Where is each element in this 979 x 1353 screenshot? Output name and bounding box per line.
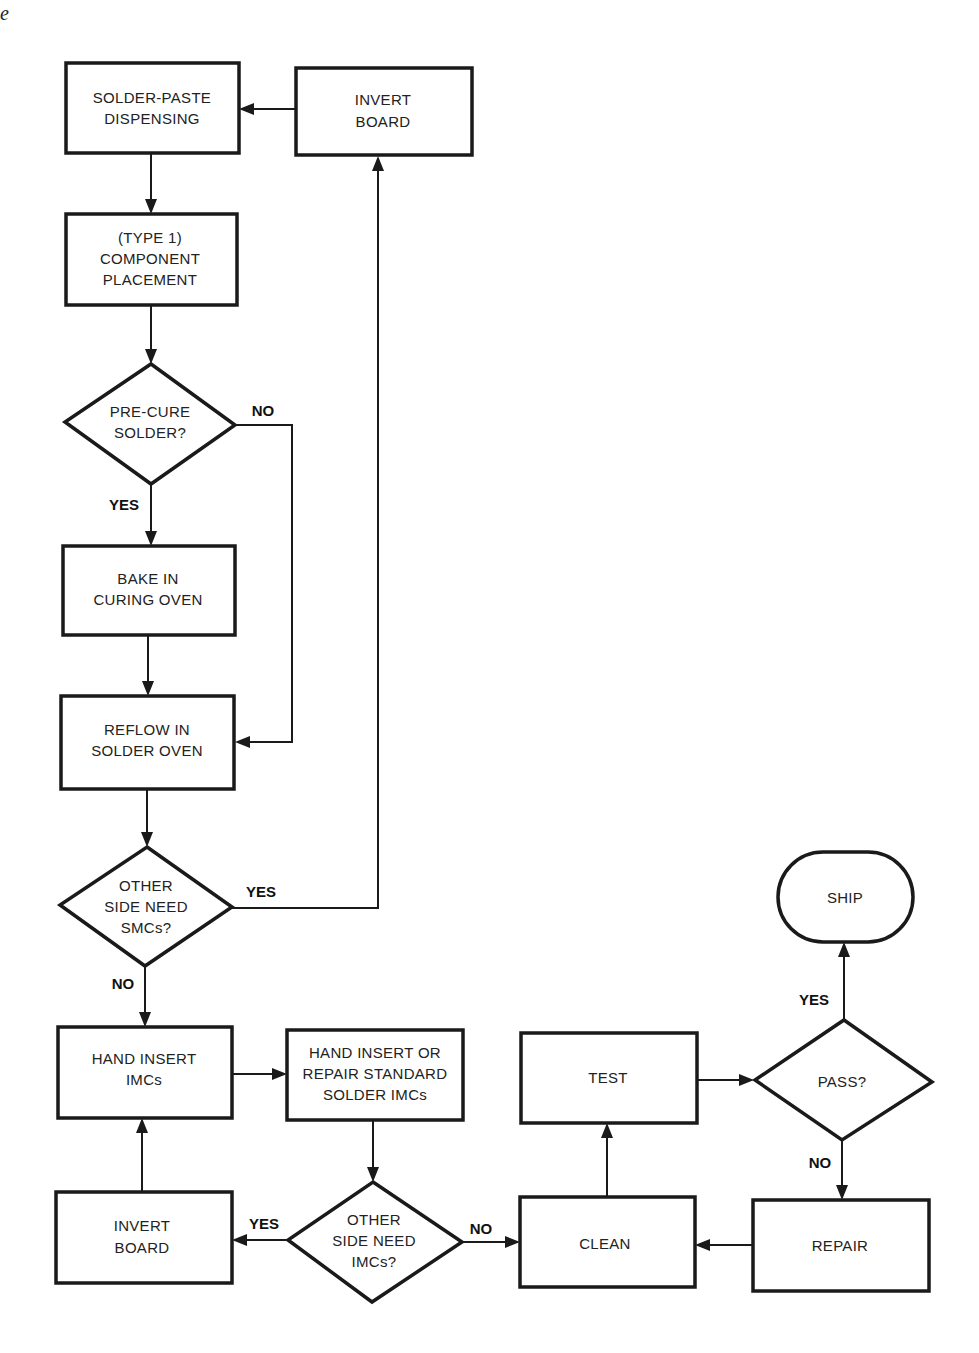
arrowhead [367, 1167, 379, 1182]
arrowhead [141, 832, 153, 847]
arrowhead [838, 942, 850, 957]
node-label: CURING OVEN [93, 591, 202, 608]
node-label: SOLDER OVEN [91, 742, 203, 759]
arrowhead [836, 1185, 848, 1200]
node-test: TEST [521, 1033, 697, 1123]
node-clean: CLEAN [520, 1197, 695, 1287]
node-label: SIDE NEED [104, 898, 188, 915]
edge-label-yes: YES [109, 496, 139, 513]
node-label: HAND INSERT [92, 1050, 197, 1067]
node-label: REPAIR [812, 1237, 869, 1254]
arrowhead [272, 1068, 287, 1080]
node-hand-insert-or-repair: HAND INSERT OR REPAIR STANDARD SOLDER IM… [287, 1030, 463, 1120]
arrowhead [136, 1118, 148, 1133]
node-label: IMCs? [352, 1253, 397, 1270]
flowchart: SOLDER-PASTE DISPENSING INVERT BOARD (TY… [0, 0, 979, 1353]
node-label: TEST [588, 1069, 628, 1086]
node-bake-in-curing-oven: BAKE IN CURING OVEN [63, 546, 235, 635]
arrowhead [232, 1234, 247, 1246]
node-label: IMCs [126, 1071, 162, 1088]
edge-label-no: NO [809, 1154, 832, 1171]
decision-other-side-imcs: OTHER SIDE NEED IMCs? [288, 1182, 462, 1302]
arrowhead [505, 1236, 520, 1248]
edge-label-no: NO [252, 402, 275, 419]
node-label: SHIP [827, 889, 863, 906]
node-label: PASS? [818, 1073, 867, 1090]
node-label: OTHER [347, 1211, 401, 1228]
edge-label-no: NO [470, 1220, 493, 1237]
node-label: HAND INSERT OR [309, 1044, 441, 1061]
node-label: SOLDER? [114, 424, 186, 441]
node-label: CLEAN [579, 1235, 631, 1252]
arrowhead [145, 349, 157, 364]
decision-precure-solder: PRE-CURE SOLDER? [65, 364, 235, 484]
node-solder-paste-dispensing: SOLDER-PASTE DISPENSING [66, 63, 239, 153]
node-label: BAKE IN [117, 570, 178, 587]
node-label: BOARD [115, 1239, 170, 1256]
node-reflow-in-solder-oven: REFLOW IN SOLDER OVEN [61, 696, 234, 789]
node-component-placement: (TYPE 1) COMPONENT PLACEMENT [66, 214, 237, 305]
node-label: REFLOW IN [104, 721, 190, 738]
node-label: SOLDER IMCs [323, 1086, 427, 1103]
node-label: OTHER [119, 877, 173, 894]
edge-label-no: NO [112, 975, 135, 992]
decision-pass: PASS? [755, 1020, 932, 1140]
node-invert-board-bottom: INVERT BOARD [56, 1192, 232, 1283]
node-label: REPAIR STANDARD [303, 1065, 448, 1082]
node-label: SMCs? [121, 919, 172, 936]
node-label: BOARD [356, 113, 411, 130]
node-label: DISPENSING [104, 110, 200, 127]
arrowhead [235, 736, 250, 748]
node-label: INVERT [114, 1217, 171, 1234]
node-label: PRE-CURE [110, 403, 191, 420]
arrowhead [601, 1123, 613, 1138]
node-label: COMPONENT [100, 250, 200, 267]
edge-precure-no-to-reflow [235, 425, 292, 742]
arrowhead [739, 1074, 754, 1086]
arrowhead [372, 156, 384, 171]
edge-label-yes: YES [246, 883, 276, 900]
node-label: PLACEMENT [103, 271, 197, 288]
arrowhead [139, 1012, 151, 1027]
node-repair: REPAIR [753, 1200, 929, 1291]
arrowhead [145, 199, 157, 214]
arrowhead [142, 681, 154, 696]
decision-other-side-smcs: OTHER SIDE NEED SMCs? [60, 847, 232, 966]
node-label: (TYPE 1) [118, 229, 182, 246]
edge-smcs-yes-to-invert [232, 170, 378, 908]
node-hand-insert-imcs: HAND INSERT IMCs [58, 1027, 232, 1118]
edges [136, 103, 850, 1251]
node-invert-board-top: INVERT BOARD [296, 68, 472, 155]
edge-label-yes: YES [799, 991, 829, 1008]
node-label: SOLDER-PASTE [93, 89, 211, 106]
arrowhead [145, 531, 157, 546]
edge-label-yes: YES [249, 1215, 279, 1232]
node-label: SIDE NEED [332, 1232, 416, 1249]
arrowhead [239, 103, 254, 115]
terminal-ship: SHIP [778, 852, 913, 942]
arrowhead [695, 1239, 710, 1251]
node-label: INVERT [355, 91, 412, 108]
